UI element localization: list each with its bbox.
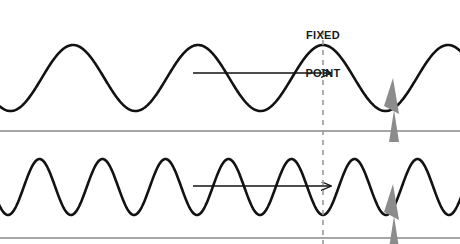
fixed-point-label: FIXED POINT [93, 4, 460, 104]
wave-diagram: FIXED POINT [0, 0, 460, 244]
fixed-point-label-line2: POINT [93, 67, 460, 80]
marker-lower-dart [389, 216, 399, 244]
marker-lower-dart [389, 110, 399, 142]
fixed-point-label-line1: FIXED [93, 29, 460, 42]
